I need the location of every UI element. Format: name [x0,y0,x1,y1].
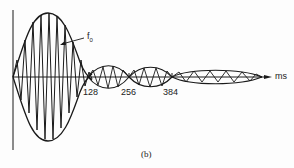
tick-label-128: 128 [83,88,98,97]
f0-arrow-icon [60,41,66,45]
axis-unit-label: ms [275,72,287,81]
envelope-upper-side-3 [172,70,262,77]
tick-label-256: 256 [121,88,136,97]
carrier-wave-main [13,13,92,139]
waveform-plot [0,0,294,168]
f0-label: f0 [87,32,93,43]
figure-b: f0 128 256 384 ms (b) [0,0,294,168]
tick-label-384: 384 [163,88,178,97]
figure-caption: (b) [141,150,152,159]
axis-arrow-icon [264,75,272,79]
